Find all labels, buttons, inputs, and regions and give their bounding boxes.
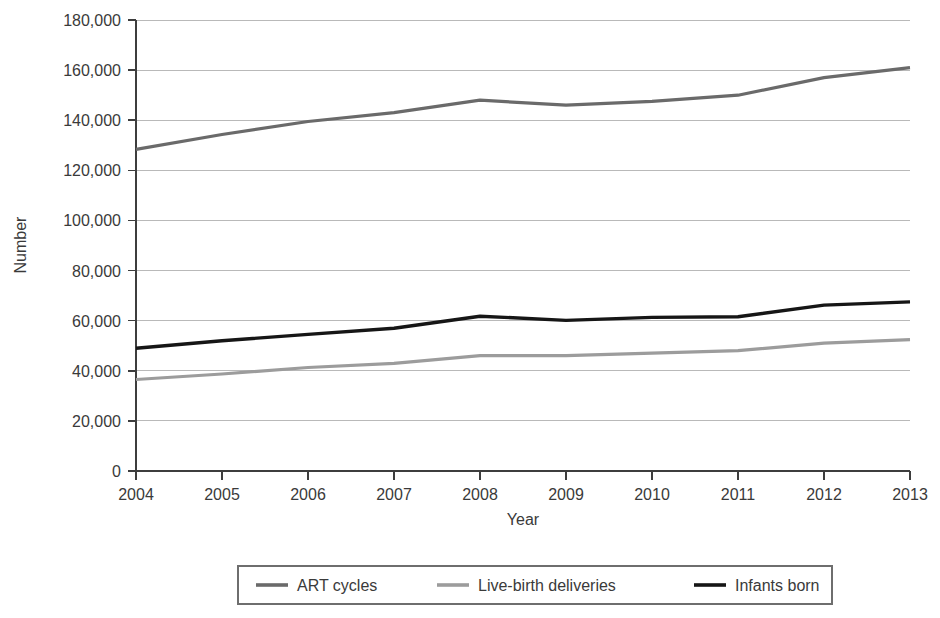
y-tick-label: 60,000 (72, 313, 121, 330)
chart-legend: ART cyclesLive-birth deliveriesInfants b… (238, 566, 832, 604)
x-tick-label: 2007 (376, 486, 412, 503)
y-tick-label: 80,000 (72, 263, 121, 280)
x-axis-title: Year (507, 511, 540, 528)
x-tick-label: 2005 (204, 486, 240, 503)
y-tick-label: 100,000 (63, 212, 121, 229)
y-axis-title: Number (12, 216, 29, 274)
x-tick-label: 2008 (462, 486, 498, 503)
y-tick-label: 20,000 (72, 413, 121, 430)
y-tick-label: 0 (112, 463, 121, 480)
y-tick-label: 40,000 (72, 363, 121, 380)
y-tick-label: 140,000 (63, 112, 121, 129)
x-tick-label: 2013 (892, 486, 928, 503)
legend-label-live-birth-deliveries: Live-birth deliveries (478, 577, 616, 594)
line-chart: 020,00040,00060,00080,000100,000120,0001… (0, 0, 940, 618)
x-tick-label: 2009 (548, 486, 584, 503)
x-tick-label: 2006 (290, 486, 326, 503)
chart-container: 020,00040,00060,00080,000100,000120,0001… (0, 0, 940, 618)
legend-label-infants-born: Infants born (735, 577, 820, 594)
x-tick-label: 2011 (721, 486, 756, 503)
x-tick-label: 2004 (118, 486, 154, 503)
y-tick-label: 160,000 (63, 62, 121, 79)
x-tick-label: 2010 (634, 486, 670, 503)
x-tick-label: 2012 (806, 486, 842, 503)
legend-label-art-cycles: ART cycles (297, 577, 377, 594)
y-tick-label: 120,000 (63, 162, 121, 179)
y-tick-label: 180,000 (63, 12, 121, 29)
